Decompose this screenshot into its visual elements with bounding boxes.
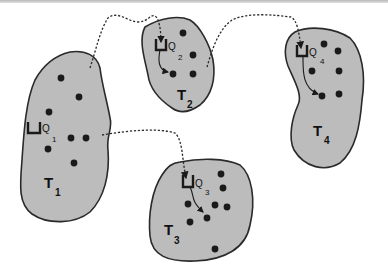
svg-text:3: 3 bbox=[205, 188, 210, 197]
svg-text:4: 4 bbox=[324, 135, 330, 146]
svg-text:2: 2 bbox=[187, 99, 193, 110]
svg-text:T: T bbox=[164, 221, 173, 238]
svg-text:1: 1 bbox=[55, 187, 61, 198]
svg-text:Q: Q bbox=[309, 47, 317, 58]
svg-text:Q: Q bbox=[195, 178, 203, 189]
svg-text:T: T bbox=[177, 86, 186, 103]
svg-text:2: 2 bbox=[178, 53, 183, 62]
region-t3: Q 3 T 3 bbox=[150, 159, 253, 261]
region-t2: Q 2 T 2 bbox=[142, 18, 214, 112]
svg-text:4: 4 bbox=[320, 57, 325, 66]
region-t4: Q 4 T 4 bbox=[285, 28, 363, 167]
svg-text:Q: Q bbox=[168, 41, 176, 52]
svg-text:Q: Q bbox=[42, 123, 50, 134]
svg-text:T: T bbox=[44, 174, 53, 191]
region-t1: Q 1 T 1 bbox=[21, 52, 111, 222]
task-region-diagram: Q 1 T 1 Q 2 T 2 Q 3 T 3 bbox=[0, 0, 388, 274]
svg-text:3: 3 bbox=[174, 235, 180, 246]
svg-text:T: T bbox=[313, 122, 322, 139]
svg-text:1: 1 bbox=[52, 135, 57, 144]
